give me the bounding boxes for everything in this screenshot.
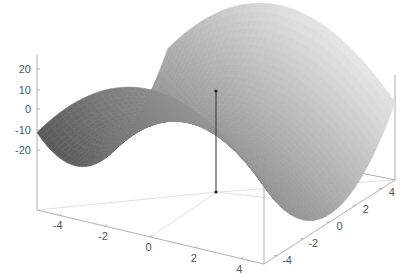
surface-plot: 20100-10-20 -4-2024 -4-2024	[0, 0, 406, 274]
x-tick-label: 4	[236, 263, 242, 274]
z-tick-label: 0	[25, 103, 31, 115]
x-tick-label: -2	[98, 230, 108, 242]
y-tick-label: 2	[363, 203, 369, 215]
x-tick-label: 2	[191, 252, 197, 264]
z-tick-label: -20	[15, 144, 31, 156]
x-tick-label: 0	[145, 241, 151, 253]
z-axis-ticks: 20100-10-20	[15, 63, 40, 156]
y-tick-label: 4	[389, 186, 395, 198]
z-tick-label: 20	[19, 63, 31, 75]
z-tick-label: 10	[19, 84, 31, 96]
x-axis-ticks: -4-2024	[53, 213, 243, 274]
y-tick-label: -4	[282, 254, 292, 266]
z-tick-label: -10	[15, 124, 31, 136]
y-tick-label: -2	[308, 237, 318, 249]
x-tick-label: -4	[53, 219, 63, 231]
y-tick-label: 0	[336, 220, 342, 232]
